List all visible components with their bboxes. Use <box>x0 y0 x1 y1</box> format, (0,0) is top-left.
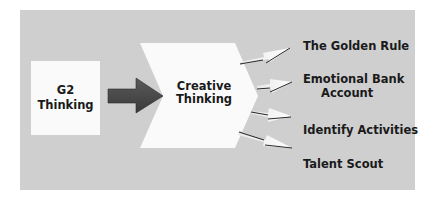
outcome-emotional-bank-account: Emotional Bank Account <box>303 73 404 100</box>
creative-thinking-label: Creative Thinking <box>168 80 240 106</box>
g2-thinking-box: G2 Thinking <box>31 61 100 135</box>
outcome-arrow-icon <box>251 108 291 122</box>
outcome-talent-scout: Talent Scout <box>303 158 383 172</box>
outcome-golden-rule: The Golden Rule <box>303 40 409 54</box>
outcome-identify-activities: Identify Activities <box>303 124 418 138</box>
outcome-arrow-icon <box>240 48 290 65</box>
outcome-arrow-icon <box>257 79 292 93</box>
main-arrow-icon <box>108 78 163 113</box>
center-label-line2: Thinking <box>168 93 240 106</box>
source-label-line2: Thinking <box>37 99 93 112</box>
outcome-label: Talent Scout <box>303 157 383 171</box>
outcome-label: Emotional Bank <box>303 72 404 86</box>
outcome-label-line2: Account <box>303 87 404 101</box>
outcome-label: The Golden Rule <box>303 39 409 53</box>
outcome-arrow-icon <box>238 131 292 148</box>
source-label-line1: G2 <box>57 84 74 99</box>
outcome-label: Identify Activities <box>303 123 418 137</box>
